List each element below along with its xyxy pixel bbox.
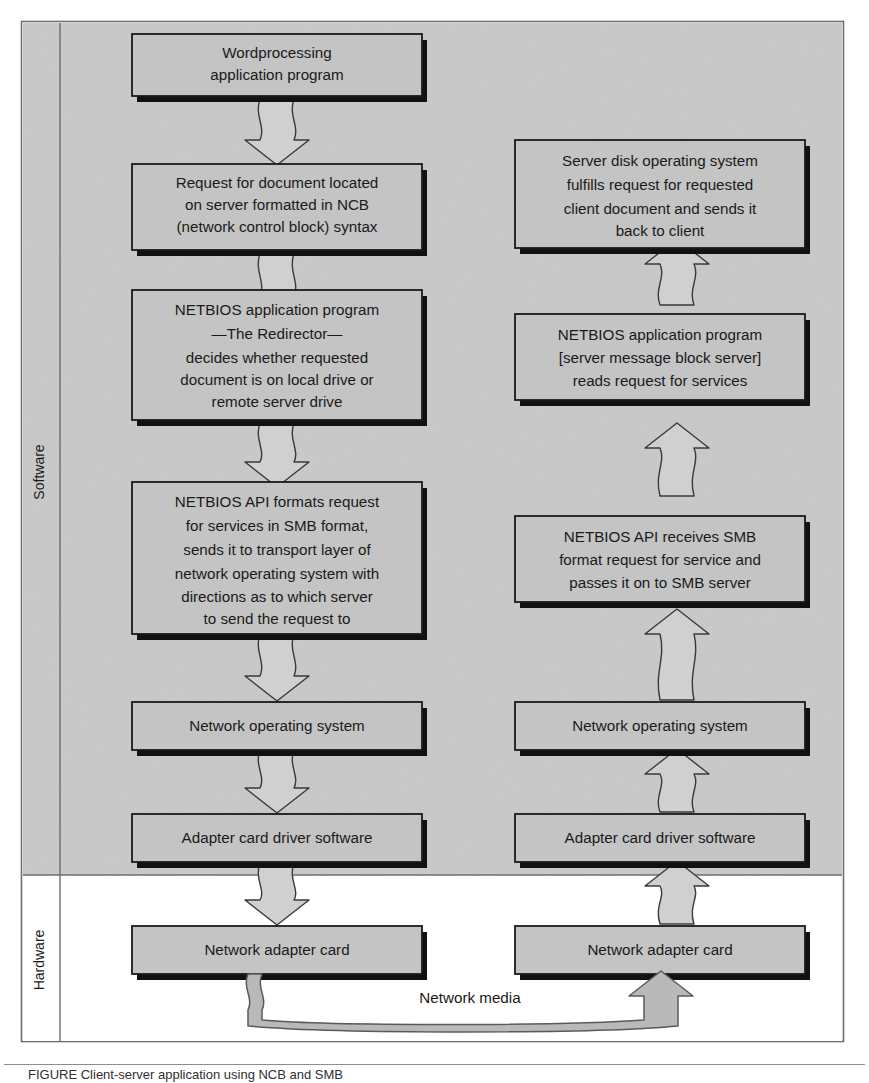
caption-rule <box>4 1064 865 1065</box>
box-server-2-line-1: NETBIOS application program <box>558 326 762 343</box>
box-client-2-line-2: on server formatted in NCB <box>185 196 369 213</box>
box-server-1-line-3: client document and sends it <box>564 200 757 217</box>
box-client-2-line-3: (network control block) syntax <box>177 218 378 235</box>
box-client-1-line-2: application program <box>210 66 343 83</box>
box-server-6-line-1: Network adapter card <box>587 941 732 958</box>
figure-caption: FIGURE Client-server application using N… <box>28 1067 343 1082</box>
box-client-5: Network operating system <box>132 702 427 756</box>
box-client-4-line-1: NETBIOS API formats request <box>175 493 380 510</box>
box-server-1-line-2: fulfills request for requested <box>567 176 754 193</box>
box-client-2: Request for document located on server f… <box>132 164 427 256</box>
box-client-6: Adapter card driver software <box>132 814 427 868</box>
box-client-3-line-5: remote server drive <box>212 393 343 410</box>
figure-root: Software Hardware Wor <box>0 0 869 1083</box>
figure-caption-bar: FIGURE Client-server application using N… <box>0 1062 869 1083</box>
box-server-3: NETBIOS API receives SMB format request … <box>515 516 810 608</box>
box-server-4-line-1: Network operating system <box>572 717 748 734</box>
box-server-3-line-3: passes it on to SMB server <box>569 574 750 591</box>
box-client-7: Network adapter card <box>132 926 427 980</box>
box-client-3: NETBIOS application program —The Redirec… <box>132 290 427 426</box>
zone-label-hardware: Hardware <box>31 929 47 990</box>
box-client-3-line-1: NETBIOS application program <box>175 301 379 318</box>
box-client-3-line-2: —The Redirector— <box>212 325 344 342</box>
box-client-7-line-1: Network adapter card <box>204 941 349 958</box>
box-client-4-line-6: to send the request to <box>204 610 351 627</box>
box-server-2: NETBIOS application program [server mess… <box>515 314 810 406</box>
box-client-3-line-3: decides whether requested <box>186 349 368 366</box>
box-server-2-line-3: reads request for services <box>573 372 748 389</box>
box-client-4-line-3: sends it to transport layer of <box>183 541 371 558</box>
box-client-6-line-1: Adapter card driver software <box>182 829 373 846</box>
box-client-4: NETBIOS API formats request for services… <box>132 482 427 640</box>
box-server-4: Network operating system <box>515 702 810 756</box>
box-client-4-line-5: directions as to which server <box>181 588 373 605</box>
box-client-3-line-4: document is on local drive or <box>180 371 373 388</box>
box-client-1-line-1: Wordprocessing <box>222 44 331 61</box>
network-flow-diagram: Software Hardware Wor <box>0 0 869 1083</box>
network-media-label: Network media <box>419 989 521 1006</box>
box-server-1-line-1: Server disk operating system <box>562 152 758 169</box>
box-client-4-line-2: for services in SMB format, <box>186 517 368 534</box>
box-server-3-line-2: format request for service and <box>559 551 761 568</box>
box-server-5-line-1: Adapter card driver software <box>565 829 756 846</box>
box-client-1: Wordprocessing application program <box>132 34 427 102</box>
box-client-4-line-4: network operating system with <box>175 565 379 582</box>
box-client-2-line-1: Request for document located <box>176 174 379 191</box>
box-server-3-line-1: NETBIOS API receives SMB <box>564 528 756 545</box>
box-server-1: Server disk operating system fulfills re… <box>515 140 810 254</box>
box-server-1-line-4: back to client <box>616 222 705 239</box>
zone-label-software: Software <box>31 444 47 499</box>
box-server-5: Adapter card driver software <box>515 814 810 868</box>
box-client-5-line-1: Network operating system <box>189 717 365 734</box>
box-server-2-line-2: [server message block server] <box>559 349 762 366</box>
